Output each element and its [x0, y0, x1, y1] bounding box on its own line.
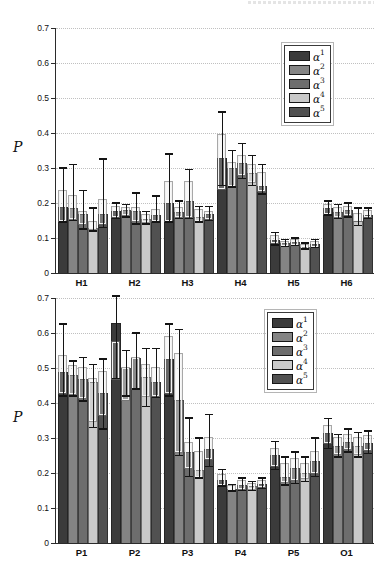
y-axis-tick [51, 238, 55, 239]
error-bar-α^2-O1 [338, 435, 339, 458]
error-bar-α^5-P3 [209, 415, 210, 467]
x-category-label: H4 [224, 277, 258, 288]
error-bar-cap-top [228, 484, 236, 486]
legend-item-label: α1 [313, 50, 325, 62]
error-bar-cap-top [152, 348, 160, 350]
error-bar-α^5-P2 [156, 349, 157, 398]
legend-item-label: α2 [313, 64, 325, 76]
error-bar-cap-bottom [238, 178, 246, 180]
error-bar-cap-bottom [258, 193, 266, 195]
error-bar-cap-top [238, 143, 246, 145]
error-bar-α^5-P1 [103, 359, 104, 429]
error-bar-α^5-P5 [315, 438, 316, 477]
error-bar-cap-top [271, 441, 279, 443]
figure-page: 00.10.20.30.40.50.60.7PH1H2H3H4H5H6α1α2α… [0, 0, 379, 568]
legend-top: α1α2α3α4α5 [284, 45, 331, 123]
legend-item-label: α4 [296, 359, 308, 371]
x-category-label: H6 [330, 277, 364, 288]
error-bar-cap-bottom [271, 244, 279, 246]
bar-α^4-H6 [353, 221, 363, 274]
error-bar-cap-bottom [152, 397, 160, 399]
error-bar-cap-bottom [281, 484, 289, 486]
error-bar-α^5-H3 [209, 207, 210, 221]
legend-swatch-α^3 [272, 346, 293, 356]
error-bar-cap-top [334, 204, 342, 206]
error-bar-α^1-O1 [328, 419, 329, 449]
bar-α^3-P1 [78, 379, 88, 544]
error-bar-cap-top [291, 237, 299, 239]
legend-swatch-α^2 [272, 332, 293, 342]
legend-item-label: α5 [313, 106, 325, 118]
error-bar-cap-top [112, 202, 120, 204]
x-category-label: H2 [118, 277, 152, 288]
error-bar-cap-bottom [228, 490, 236, 492]
error-bar-α^2-P1 [73, 361, 74, 396]
error-bar-cap-bottom [364, 218, 372, 220]
error-bar-cap-top [238, 477, 246, 479]
y-axis-tick [51, 298, 55, 299]
error-bar-cap-top [344, 428, 352, 430]
y-tick-label: 0.4 [21, 128, 49, 138]
error-bar-cap-top [69, 164, 77, 166]
error-bar-cap-bottom [89, 427, 97, 429]
error-bar-cap-top [281, 456, 289, 458]
legend-swatch-α^3 [289, 79, 310, 89]
error-bar-cap-top [165, 153, 173, 155]
error-bar-cap-bottom [271, 469, 279, 471]
x-category-label: P2 [118, 547, 152, 558]
error-bar-cap-bottom [112, 218, 120, 220]
legend-item: α1 [272, 316, 308, 330]
error-bar-α^4-H6 [358, 208, 359, 226]
error-bar-cap-top [301, 242, 309, 244]
error-bar-α^1-P5 [275, 442, 276, 470]
error-bar-cap-bottom [324, 214, 332, 216]
error-bar-cap-bottom [59, 221, 67, 223]
error-bar-cap-bottom [89, 230, 97, 232]
legend-item: α4 [289, 91, 325, 105]
error-bar-cap-bottom [112, 378, 120, 380]
error-bar-cap-top [364, 207, 372, 209]
y-axis-tick [51, 203, 55, 204]
error-bar-cap-bottom [185, 476, 193, 478]
error-bar-cap-top [311, 437, 319, 439]
error-bar-cap-bottom [344, 216, 352, 218]
error-bar-cap-bottom [142, 223, 150, 225]
error-bar-cap-bottom [324, 448, 332, 450]
y-axis-label: P [13, 409, 22, 425]
error-bar-cap-top [291, 451, 299, 453]
y-tick-label: 0 [21, 268, 49, 278]
bar-α^5-O1 [363, 443, 373, 543]
bar-α^4-P3 [194, 470, 204, 544]
bar-α^2-P1 [68, 375, 78, 543]
error-bar-cap-top [271, 232, 279, 234]
error-bar-cap-top [364, 430, 372, 432]
legend-swatch-α^5 [289, 107, 310, 117]
bar-α^4-P4 [247, 486, 257, 543]
y-tick-label: 0.1 [21, 233, 49, 243]
error-bar-cap-bottom [344, 451, 352, 453]
error-bar-cap-bottom [218, 485, 226, 487]
error-bar-α^5-H4 [262, 165, 263, 195]
error-bar-cap-bottom [334, 456, 342, 458]
y-tick-label: 0.5 [21, 363, 49, 373]
error-bar-α^3-P1 [83, 358, 84, 402]
gridline [56, 333, 374, 334]
error-bar-cap-bottom [165, 221, 173, 223]
error-bar-α^3-O1 [348, 429, 349, 452]
error-bar-cap-bottom [205, 220, 213, 222]
error-bar-cap-top [142, 348, 150, 350]
error-bar-cap-top [69, 360, 77, 362]
x-category-label: P4 [224, 547, 258, 558]
error-bar-cap-top [205, 206, 213, 208]
legend-item: α3 [272, 344, 308, 358]
bar-α^4-H1 [88, 228, 98, 274]
error-bar-cap-top [228, 150, 236, 152]
error-bar-α^1-P1 [63, 324, 64, 396]
y-axis-label: P [13, 139, 22, 155]
error-bar-cap-top [324, 200, 332, 202]
error-bar-cap-bottom [354, 225, 362, 227]
error-bar-α^2-P2 [126, 351, 127, 397]
y-tick-label: 0.5 [21, 93, 49, 103]
y-axis-tick [51, 28, 55, 29]
error-bar-cap-bottom [301, 481, 309, 483]
